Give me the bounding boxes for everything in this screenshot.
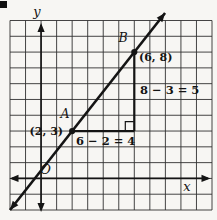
point-B-label: B <box>117 30 127 45</box>
run-label: 6 − 2 = 4 <box>76 134 135 148</box>
axes <box>10 23 211 212</box>
x-axis-label: x <box>183 179 191 194</box>
point-A-label: A <box>59 106 69 121</box>
figure: y x O A B (2, 3) (6, 8) 8 − 3 = 5 6 − 2 … <box>0 0 217 220</box>
y-axis-label: y <box>32 4 41 19</box>
point-B-coords: (6, 8) <box>139 51 172 64</box>
x-axis-right-arrow <box>202 175 211 182</box>
point-A-dot <box>69 128 75 134</box>
x-axis-left-arrow <box>10 175 19 182</box>
origin-label: O <box>40 162 51 177</box>
y-axis-up-arrow <box>37 23 44 32</box>
coordinate-grid-figure: y x O A B (2, 3) (6, 8) 8 − 3 = 5 6 − 2 … <box>0 0 217 220</box>
right-angle-marker <box>125 122 134 131</box>
point-A-coords: (2, 3) <box>30 125 63 138</box>
point-B-dot <box>131 49 137 55</box>
rise-label: 8 − 3 = 5 <box>140 83 199 97</box>
y-axis-down-arrow <box>37 203 44 212</box>
